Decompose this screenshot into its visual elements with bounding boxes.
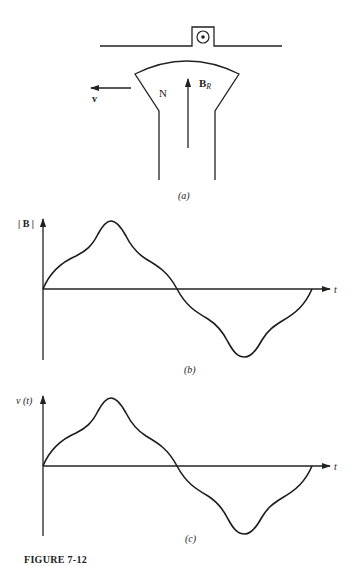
figure-canvas: N BR v (a) | B | t (b) v (t) t (c) FIGUR… <box>0 0 358 566</box>
stator-surface <box>100 27 282 46</box>
conductor-dot-icon <box>201 35 205 39</box>
panel-b-label: (b) <box>184 364 196 376</box>
panel-b-flux-plot: | B | t (b) <box>18 218 337 376</box>
figure-caption: FIGURE 7-12 <box>24 554 87 565</box>
x-axis-label: t <box>334 461 337 472</box>
field-label: BR <box>199 77 211 91</box>
panel-c-label: (c) <box>185 533 197 545</box>
velocity-label: v <box>92 93 97 104</box>
panel-a-label: (a) <box>178 190 190 202</box>
panel-a-machine-diagram: N BR v (a) <box>91 27 282 202</box>
y-axis-label: | B | <box>18 218 34 229</box>
y-axis-label: v (t) <box>16 395 33 407</box>
rotor-pole <box>135 61 239 180</box>
panel-c-voltage-plot: v (t) t (c) <box>16 395 337 545</box>
pole-label: N <box>159 87 167 99</box>
x-axis-label: t <box>334 284 337 295</box>
